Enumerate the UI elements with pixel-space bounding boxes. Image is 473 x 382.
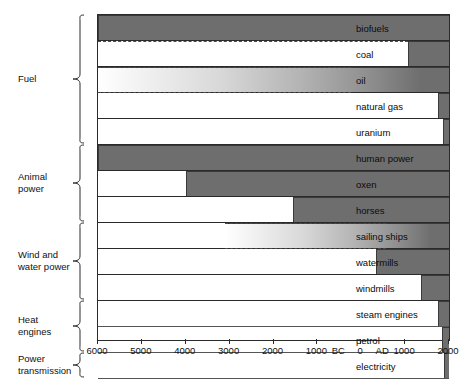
category-label-heat-engines: Heat engines bbox=[18, 314, 51, 337]
uncertainty-dash-line bbox=[225, 223, 386, 224]
axis-tick bbox=[185, 339, 186, 344]
timeline-row: uranium bbox=[98, 119, 449, 145]
row-separator bbox=[98, 378, 449, 379]
uncertainty-dash-line bbox=[225, 248, 386, 249]
plot-area: biofuelscoaloilnatural gasuraniumhuman p… bbox=[97, 14, 450, 341]
axis-tick-label: 1000 bbox=[394, 345, 415, 356]
timeline-row: horses bbox=[98, 197, 449, 223]
timeline-bar bbox=[438, 93, 449, 118]
timeline-bar bbox=[225, 223, 449, 248]
axis-tick bbox=[97, 339, 98, 344]
timeline-bar bbox=[186, 171, 449, 196]
category-label-fuel: Fuel bbox=[18, 73, 36, 85]
axis-tick bbox=[229, 339, 230, 344]
timeline-bar bbox=[376, 249, 449, 274]
timeline-bar bbox=[293, 197, 449, 222]
category-label-wind-water-power: Wind and water power bbox=[18, 249, 70, 272]
category-label-animal-power: Animal power bbox=[18, 171, 47, 194]
timeline-row: oil bbox=[98, 67, 449, 93]
timeline-bar-label: uranium bbox=[356, 127, 390, 138]
uncertainty-dash-line bbox=[98, 92, 351, 93]
timeline-chart: Fuel Animal power Wind and water power H… bbox=[0, 0, 473, 382]
axis-tick bbox=[316, 339, 317, 344]
uncertainty-dash-line bbox=[98, 67, 351, 68]
timeline-row: human power bbox=[98, 145, 449, 171]
timeline-row: oxen bbox=[98, 171, 449, 197]
timeline-bar bbox=[421, 275, 449, 300]
group-brace-wind-water-power bbox=[72, 222, 86, 300]
axis-tick-label: 0 bbox=[358, 345, 363, 356]
axis-tick-label: 5000 bbox=[130, 345, 151, 356]
timeline-bar bbox=[438, 301, 449, 326]
timeline-bar-label: coal bbox=[356, 49, 373, 60]
timeline-row: coal bbox=[98, 41, 449, 67]
timeline-bar bbox=[443, 119, 449, 144]
axis-tick-label: 6000 bbox=[86, 345, 107, 356]
timeline-bar-label: steam engines bbox=[356, 309, 418, 320]
timeline-row: watermills bbox=[98, 249, 449, 275]
timeline-row: steam engines bbox=[98, 301, 449, 327]
axis-tick bbox=[273, 339, 274, 344]
timeline-bar bbox=[444, 353, 449, 378]
timeline-bar-label: natural gas bbox=[356, 101, 403, 112]
timeline-row: biofuels bbox=[98, 15, 449, 41]
timeline-row: sailing ships bbox=[98, 223, 449, 249]
group-brace-heat-engines bbox=[72, 300, 86, 352]
timeline-bar bbox=[408, 41, 449, 66]
category-label-power-transmission: Power transmission bbox=[18, 353, 71, 376]
timeline-row: electricity bbox=[98, 353, 449, 379]
timeline-bar bbox=[98, 15, 449, 40]
timeline-row: windmills bbox=[98, 275, 449, 301]
axis-tick-label: 2000 bbox=[437, 345, 458, 356]
group-brace-fuel bbox=[72, 14, 86, 144]
timeline-bar-label: electricity bbox=[356, 361, 396, 372]
timeline-bar bbox=[98, 67, 449, 92]
axis-tick bbox=[360, 339, 361, 344]
axis-tick-label: 3000 bbox=[218, 345, 239, 356]
axis-tick-label: 4000 bbox=[174, 345, 195, 356]
group-brace-power-transmission bbox=[72, 352, 86, 378]
axis-era-label: BC bbox=[332, 345, 345, 356]
axis-tick bbox=[141, 339, 142, 344]
axis-tick bbox=[404, 339, 405, 344]
timeline-bar bbox=[98, 145, 449, 170]
axis-tick bbox=[448, 339, 449, 344]
uncertainty-dash-line bbox=[98, 41, 408, 42]
axis-tick-label: 2000 bbox=[262, 345, 283, 356]
group-brace-animal-power bbox=[72, 144, 86, 222]
axis-tick-label: 1000 bbox=[306, 345, 327, 356]
timeline-row: natural gas bbox=[98, 93, 449, 119]
timeline-bar-label: windmills bbox=[356, 283, 395, 294]
axis-era-label: AD bbox=[376, 345, 389, 356]
